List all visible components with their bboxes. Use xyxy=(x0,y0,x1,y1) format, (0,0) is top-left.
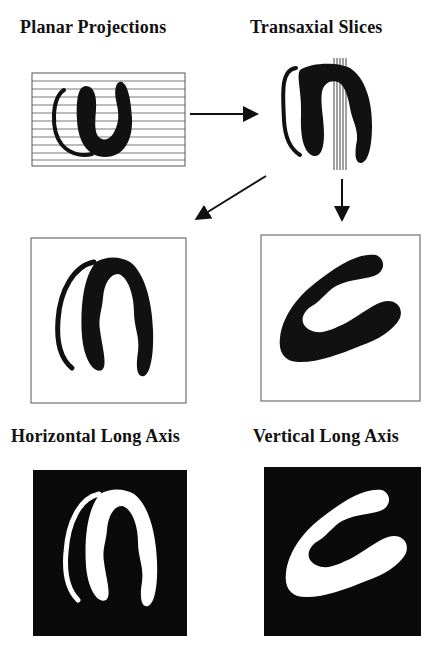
arrow-transaxial-to-horizontal xyxy=(198,176,266,218)
vertical-long-axis-image-panel xyxy=(264,467,421,636)
horizontal-long-axis-outline-panel xyxy=(31,238,186,403)
transaxial-slices-panel xyxy=(283,58,372,170)
horizontal-long-axis-image-panel xyxy=(33,470,187,636)
planar-projection-panel xyxy=(32,73,185,166)
vertical-long-axis-outline-panel xyxy=(261,235,420,401)
